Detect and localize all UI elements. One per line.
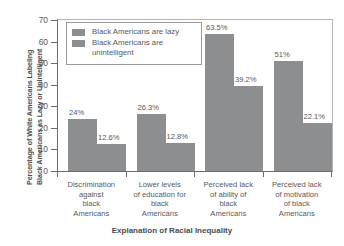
x-axis-category-line: black: [126, 199, 195, 209]
bar-group: 63.5%39.2%: [205, 20, 263, 171]
x-axis-category-line: Perceived lack: [263, 180, 332, 190]
x-axis-category-line: of motivation: [263, 190, 332, 200]
y-axis-tick-label: 50: [8, 58, 48, 68]
x-axis-category-line: Discrimination: [57, 180, 126, 190]
bar[interactable]: [274, 61, 303, 171]
y-axis-tick-label: 0: [8, 166, 48, 176]
bar[interactable]: [303, 123, 332, 171]
legend-item-lazy: Black Americans are lazy: [72, 27, 196, 37]
x-axis-category-line: black: [194, 199, 263, 209]
x-axis-category-line: of black: [263, 199, 332, 209]
legend-swatch-icon: [72, 29, 85, 36]
x-axis-category-line: Americans: [57, 209, 126, 219]
x-axis-tick: [126, 172, 127, 177]
x-axis-tick: [57, 172, 58, 177]
legend-item-unintelligent: Black Americans are unintelligent: [72, 38, 196, 58]
x-axis-tick: [263, 172, 264, 177]
x-axis-category-label: DiscriminationagainstblackAmericans: [57, 180, 126, 218]
x-axis-category-label: Perceived lackof ability ofblackAmerican…: [194, 180, 263, 218]
y-axis-tick-label: 60: [8, 37, 48, 47]
x-axis-tick: [194, 172, 195, 177]
x-axis-category-line: Americans: [126, 209, 195, 219]
bar-value-label: 24%: [69, 108, 84, 117]
legend: Black Americans are lazy Black Americans…: [66, 22, 202, 65]
y-axis-title-line-2: Black Americans as Lazy or Unintelligent: [35, 5, 45, 185]
y-axis-tick-label: 70: [8, 15, 48, 25]
y-axis-title: Percentage of White Americans Labeling B…: [0, 0, 30, 190]
x-axis-category-line: Americans: [263, 209, 332, 219]
bar-value-label: 12.6%: [98, 133, 120, 142]
y-axis-title-line-1: Percentage of White Americans Labeling: [25, 5, 35, 185]
x-axis-tick: [331, 172, 332, 177]
x-axis-category-line: of education for: [126, 190, 195, 200]
y-axis-tick-label: 10: [8, 144, 48, 154]
bar[interactable]: [205, 34, 234, 171]
x-axis-category-line: of ability of: [194, 190, 263, 200]
x-axis-category-line: against: [57, 190, 126, 200]
x-axis-category-line: black: [57, 199, 126, 209]
x-axis-category-line: Americans: [194, 209, 263, 219]
bar[interactable]: [68, 119, 97, 171]
bar-group: 51%22.1%: [274, 20, 332, 171]
bar[interactable]: [137, 114, 166, 171]
bar[interactable]: [234, 86, 263, 171]
legend-label: Black Americans are unintelligent: [92, 38, 196, 58]
bar[interactable]: [166, 143, 195, 171]
bar-value-label: 51%: [275, 50, 290, 59]
x-axis-title: Explanation of Racial Inequality: [0, 226, 344, 235]
y-axis-tick-label: 20: [8, 123, 48, 133]
bar-value-label: 39.2%: [235, 75, 257, 84]
y-axis-tick-label: 40: [8, 80, 48, 90]
bar-chart: Percentage of White Americans Labeling B…: [0, 0, 344, 246]
x-axis-category-line: Perceived lack: [194, 180, 263, 190]
bar-value-label: 63.5%: [206, 23, 228, 32]
x-axis-category-label: Lower levelsof education forblackAmerica…: [126, 180, 195, 218]
bar-value-label: 22.1%: [304, 112, 326, 121]
bar-value-label: 26.3%: [138, 103, 160, 112]
x-axis-category-label: Perceived lackof motivationof blackAmeri…: [263, 180, 332, 218]
legend-label: Black Americans are lazy: [92, 27, 179, 37]
x-axis-categories: DiscriminationagainstblackAmericansLower…: [57, 180, 333, 222]
bar-value-label: 12.8%: [167, 132, 189, 141]
y-axis-tick-label: 30: [8, 101, 48, 111]
bar[interactable]: [97, 144, 126, 171]
legend-swatch-icon: [72, 40, 85, 47]
x-axis-category-line: Lower levels: [126, 180, 195, 190]
